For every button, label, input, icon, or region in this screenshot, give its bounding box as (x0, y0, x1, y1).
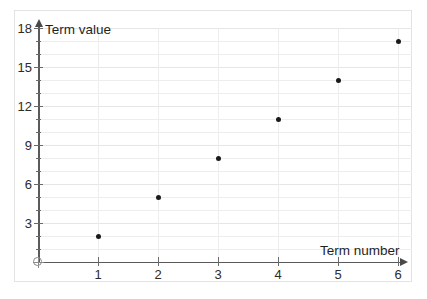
gridline-horizontal (38, 41, 412, 42)
gridline-horizontal (38, 171, 412, 172)
data-point (276, 117, 281, 122)
y-axis-tick-minor (36, 119, 41, 120)
data-point (396, 39, 401, 44)
y-axis-tick-minor (36, 236, 41, 237)
scatter-chart-figure: 369121518 123456 Term value Term number (0, 0, 427, 299)
y-axis-tick-minor (36, 210, 41, 211)
y-axis-tick-label-text: 6 (2, 178, 32, 191)
gridline-horizontal (38, 93, 412, 94)
y-axis-title: Term value (45, 22, 111, 37)
gridline-vertical (98, 28, 99, 262)
x-axis-tick (98, 257, 99, 266)
y-axis-tick-label: 18 (0, 22, 32, 35)
y-axis-tick-label: 12 (0, 100, 32, 113)
y-axis-line (38, 26, 40, 262)
origin-marker-icon (33, 257, 44, 268)
gridline-vertical (398, 28, 399, 262)
y-axis-tick-label-text: 18 (2, 22, 32, 35)
gridline-horizontal (38, 106, 412, 107)
y-axis-tick-minor (36, 80, 41, 81)
data-point (156, 195, 161, 200)
y-axis-tick-major (34, 106, 43, 107)
y-axis-arrow-icon (35, 19, 43, 27)
y-axis-tick-label: 15 (0, 61, 32, 74)
x-axis-arrow-icon (400, 258, 408, 266)
x-axis-tick (158, 257, 159, 266)
x-axis-tick-label: 4 (265, 268, 291, 281)
y-axis-tick-minor (36, 41, 41, 42)
data-point (216, 156, 221, 161)
y-axis-tick-label: 3 (0, 217, 32, 230)
gridline-vertical (218, 28, 219, 262)
gridline-horizontal (38, 132, 412, 133)
x-axis-tick (398, 257, 399, 266)
y-axis-tick-label: 6 (0, 178, 32, 191)
gridline-horizontal (38, 119, 412, 120)
gridline-horizontal (38, 223, 412, 224)
x-axis-title: Term number (320, 243, 400, 258)
gridline-horizontal (38, 80, 412, 81)
y-axis-tick-minor (36, 158, 41, 159)
x-axis-tick-label: 3 (205, 268, 231, 281)
y-axis-tick-minor (36, 249, 41, 250)
x-axis-tick (338, 257, 339, 266)
y-axis-tick-minor (36, 171, 41, 172)
x-axis-tick-label: 2 (145, 268, 171, 281)
y-axis-tick-label-text: 3 (2, 217, 32, 230)
y-axis-tick-minor (36, 93, 41, 94)
gridline-horizontal (38, 210, 412, 211)
x-axis-tick-label: 6 (385, 268, 411, 281)
gridline-horizontal (38, 67, 412, 68)
gridline-vertical (158, 28, 159, 262)
y-axis-tick-major (34, 145, 43, 146)
x-axis-tick-label: 1 (85, 268, 111, 281)
origin-cross-vertical (38, 257, 39, 268)
data-point (336, 78, 341, 83)
gridline-vertical (278, 28, 279, 262)
plot-area: 369121518 123456 Term value Term number (0, 0, 427, 299)
y-axis-tick-major (34, 184, 43, 185)
x-axis-tick (218, 257, 219, 266)
y-axis-tick-major (34, 67, 43, 68)
x-axis-tick (278, 257, 279, 266)
gridline-vertical (338, 28, 339, 262)
gridline-horizontal (38, 236, 412, 237)
y-axis-tick-minor (36, 132, 41, 133)
y-axis-tick-label-text: 12 (2, 100, 32, 113)
gridline-horizontal (38, 54, 412, 55)
y-axis-tick-label: 9 (0, 139, 32, 152)
gridline-horizontal (38, 145, 412, 146)
x-axis-line (37, 262, 402, 264)
y-axis-tick-major (34, 223, 43, 224)
y-axis-tick-minor (36, 197, 41, 198)
gridline-horizontal (38, 184, 412, 185)
data-point (96, 234, 101, 239)
gridline-horizontal (38, 197, 412, 198)
y-axis-tick-label-text: 15 (2, 61, 32, 74)
gridline-horizontal (38, 158, 412, 159)
y-axis-tick-minor (36, 54, 41, 55)
y-axis-tick-major (34, 28, 43, 29)
x-axis-tick-label: 5 (325, 268, 351, 281)
y-axis-tick-label-text: 9 (2, 139, 32, 152)
